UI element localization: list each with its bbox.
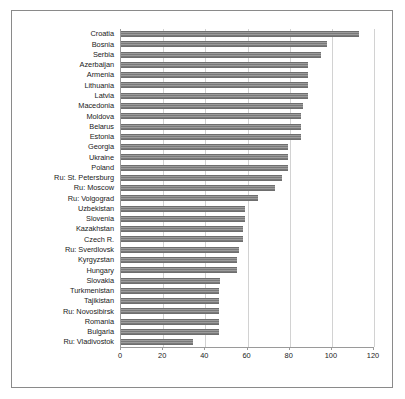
- chart-plot-wrapper: CroatiaBosniaSerbiaAzerbaijanArmeniaLith…: [12, 11, 394, 389]
- bar: [121, 124, 301, 130]
- category-label: Belarus: [14, 121, 118, 131]
- category-label: Azerbaijan: [14, 60, 118, 70]
- bar: [121, 267, 237, 273]
- bar: [121, 288, 219, 294]
- category-label: Serbia: [14, 50, 118, 60]
- category-label: Hungary: [14, 265, 118, 275]
- bar: [121, 216, 245, 222]
- bar-row: [121, 234, 374, 244]
- category-label: Romania: [14, 316, 118, 326]
- bar-row: [121, 224, 374, 234]
- bar: [121, 103, 303, 109]
- bar: [121, 278, 220, 284]
- value-axis-tick-label: 20: [158, 352, 166, 359]
- plot-area: [120, 29, 374, 347]
- category-label: Slovenia: [14, 214, 118, 224]
- bar-row: [121, 111, 374, 121]
- category-label: Tajikistan: [14, 296, 118, 306]
- bar-row: [121, 101, 374, 111]
- bar-row: [121, 316, 374, 326]
- bar-row: [121, 296, 374, 306]
- category-label: Croatia: [14, 29, 118, 39]
- bar: [121, 72, 308, 78]
- bar-row: [121, 255, 374, 265]
- bar-row: [121, 183, 374, 193]
- category-label: Macedonia: [14, 101, 118, 111]
- bar-row: [121, 337, 374, 347]
- bar-row: [121, 204, 374, 214]
- category-label: Latvia: [14, 91, 118, 101]
- value-axis-tick: [331, 347, 332, 350]
- bar: [121, 93, 308, 99]
- bar: [121, 62, 308, 68]
- value-axis-tick: [247, 347, 248, 350]
- bar: [121, 175, 282, 181]
- category-label: Ukraine: [14, 152, 118, 162]
- bar-series: [121, 29, 374, 347]
- bar-row: [121, 286, 374, 296]
- bar-row: [121, 306, 374, 316]
- value-axis-tick-label: 100: [325, 352, 337, 359]
- bar-row: [121, 275, 374, 285]
- bar: [121, 226, 243, 232]
- value-axis-tick: [162, 347, 163, 350]
- bar-row: [121, 162, 374, 172]
- bar-row: [121, 327, 374, 337]
- bar: [121, 206, 245, 212]
- bar-row: [121, 80, 374, 90]
- category-label: Czech R.: [14, 234, 118, 244]
- category-label: Ru: St. Petersburg: [14, 173, 118, 183]
- bar-row: [121, 132, 374, 142]
- category-label: Lithuania: [14, 80, 118, 90]
- category-label: Kyrgyzstan: [14, 255, 118, 265]
- bar: [121, 52, 321, 58]
- bar-row: [121, 29, 374, 39]
- bar: [121, 154, 288, 160]
- bar-row: [121, 91, 374, 101]
- category-label: Georgia: [14, 142, 118, 152]
- value-axis-tick-label: 80: [285, 352, 293, 359]
- bar: [121, 195, 258, 201]
- category-label: Estonia: [14, 132, 118, 142]
- bar: [121, 247, 239, 253]
- bar-row: [121, 142, 374, 152]
- bar: [121, 134, 301, 140]
- bar: [121, 298, 219, 304]
- value-axis-tick: [204, 347, 205, 350]
- bar: [121, 144, 288, 150]
- value-axis-tick: [373, 347, 374, 350]
- bar-row: [121, 50, 374, 60]
- bar: [121, 31, 359, 37]
- bar: [121, 185, 275, 191]
- category-label: Moldova: [14, 111, 118, 121]
- bar-row: [121, 60, 374, 70]
- category-label: Armenia: [14, 70, 118, 80]
- bar-row: [121, 121, 374, 131]
- category-label: Turkmenistan: [14, 286, 118, 296]
- bar-row: [121, 39, 374, 49]
- bar-row: [121, 265, 374, 275]
- value-axis-tick-label: 0: [118, 352, 122, 359]
- bar: [121, 165, 288, 171]
- bar-row: [121, 245, 374, 255]
- category-label: Ru: Vladivostok: [14, 337, 118, 347]
- bar: [121, 319, 219, 325]
- bar: [121, 82, 308, 88]
- category-label: Slovakia: [14, 275, 118, 285]
- bar-row: [121, 173, 374, 183]
- bar: [121, 257, 237, 263]
- bar-row: [121, 70, 374, 80]
- chart-frame: CroatiaBosniaSerbiaAzerbaijanArmeniaLith…: [11, 10, 393, 388]
- category-label: Ru: Volgograd: [14, 193, 118, 203]
- gridline: [374, 29, 375, 347]
- category-label: Poland: [14, 162, 118, 172]
- value-axis-tick: [289, 347, 290, 350]
- bar: [121, 329, 219, 335]
- value-axis-tick: [120, 347, 121, 350]
- category-label: Ru: Moscow: [14, 183, 118, 193]
- category-label: Kazakhstan: [14, 224, 118, 234]
- bar: [121, 41, 327, 47]
- category-label: Ru: Sverdlovsk: [14, 245, 118, 255]
- category-label: Bosnia: [14, 39, 118, 49]
- value-axis-tick-label: 60: [242, 352, 250, 359]
